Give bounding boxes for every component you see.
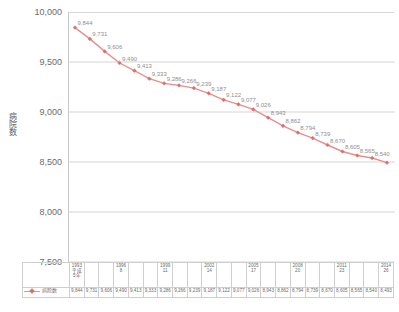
data-point-marker	[355, 154, 359, 158]
table-category-line: 17	[247, 268, 261, 273]
table-category-cell	[364, 263, 379, 288]
table-category-cell	[261, 263, 276, 288]
data-point-label: 9,266	[182, 78, 198, 84]
data-point-marker	[162, 82, 166, 86]
table-category-cell	[217, 263, 232, 288]
table-value-cell: 9,333	[143, 288, 158, 298]
data-point-marker	[192, 86, 196, 90]
table-category-cell: 200820	[290, 263, 305, 288]
table-category-line: 5年	[70, 273, 84, 278]
plot-area: 9,8449,7319,6069,4909,4139,3339,2869,266…	[68, 12, 394, 262]
table-category-cell	[128, 263, 143, 288]
data-point-label: 9,333	[152, 71, 168, 77]
table-category-line: 11	[158, 268, 172, 273]
table-category-cell	[143, 263, 158, 288]
data-point-label: 9,077	[241, 97, 257, 103]
y-axis-tick-label: 10,000	[34, 8, 62, 17]
table-category-cell	[84, 263, 99, 288]
data-point-label: 8,943	[271, 110, 287, 116]
y-axis-tick-labels: 10,0009,5009,0008,5008,0007,500	[16, 0, 66, 272]
y-axis-tick-label: 9,000	[39, 108, 62, 117]
table-category-cell	[305, 263, 320, 288]
data-point-label: 8,670	[330, 138, 346, 144]
data-point-label: 9,606	[107, 44, 123, 50]
data-table: 1993平成5年19968199911200214200517200820201…	[22, 262, 394, 298]
chart-figure: 病院数 10,0009,5009,0008,5008,0007,500 9,84…	[0, 0, 399, 312]
data-point-label: 9,490	[122, 56, 138, 62]
table-value-cell: 8,670	[320, 288, 335, 298]
table-category-line: 23	[335, 268, 349, 273]
table-category-line: 26	[379, 268, 393, 273]
data-point-marker	[237, 102, 241, 106]
table-value-cell: 8,794	[290, 288, 305, 298]
table-category-line: 8	[114, 268, 128, 273]
table-value-cell: 9,239	[187, 288, 202, 298]
legend-line-marker-icon	[24, 288, 40, 294]
data-point-label: 8,862	[286, 118, 302, 124]
y-axis-tick-label: 9,500	[39, 58, 62, 67]
table-row-values: 病院数9,8449,7319,6069,4909,4139,3339,2869,…	[23, 288, 394, 298]
table-value-cell: 9,266	[173, 288, 188, 298]
table-category-cell	[187, 263, 202, 288]
table-category-cell: 201123	[334, 263, 349, 288]
table-value-cell: 8,739	[305, 288, 320, 298]
table-value-cell: 9,731	[84, 288, 99, 298]
table-value-cell: 8,943	[261, 288, 276, 298]
table-category-cell: 200214	[202, 263, 217, 288]
table-category-cell: 1993平成5年	[70, 263, 85, 288]
data-point-label: 9,187	[211, 86, 227, 92]
data-point-label: 9,731	[92, 31, 108, 37]
table-value-cell: 9,286	[158, 288, 173, 298]
table-category-cell: 199911	[158, 263, 173, 288]
table-category-cell: 201426	[379, 263, 394, 288]
table-category-line: 14	[202, 268, 216, 273]
table-value-cell: 9,026	[246, 288, 261, 298]
table-value-cell: 8,493	[379, 288, 394, 298]
y-axis-tick-label: 8,500	[39, 158, 62, 167]
table-row-categories: 1993平成5年19968199911200214200517200820201…	[23, 263, 394, 288]
data-point-label: 8,605	[345, 144, 361, 150]
data-point-label: 9,844	[78, 20, 94, 26]
data-point-label: 9,239	[196, 81, 212, 87]
table-value-cell: 8,605	[334, 288, 349, 298]
legend-entry: 病院数	[23, 288, 70, 298]
table-category-cell	[349, 263, 364, 288]
line-chart-svg: 9,8449,7319,6069,4909,4139,3339,2869,266…	[69, 12, 395, 262]
table-value-cell: 9,413	[128, 288, 143, 298]
data-point-label: 8,739	[315, 131, 331, 137]
table-value-cell: 8,565	[349, 288, 364, 298]
data-point-label: 9,286	[167, 76, 183, 82]
table-category-cell: 19968	[114, 263, 129, 288]
data-point-label: 9,122	[226, 92, 242, 98]
data-point-marker	[385, 161, 389, 165]
table-category-cell	[99, 263, 114, 288]
data-point-label: 8,794	[300, 125, 316, 131]
table-category-line: 20	[291, 268, 305, 273]
table-category-cell	[276, 263, 291, 288]
y-axis-title: 病院数	[2, 112, 16, 136]
table-value-cell: 8,862	[276, 288, 291, 298]
table-value-cell: 8,540	[364, 288, 379, 298]
table-value-cell: 9,844	[70, 288, 85, 298]
table-category-cell: 200517	[246, 263, 261, 288]
data-point-marker	[177, 84, 181, 88]
y-axis-tick-label: 8,000	[39, 208, 62, 217]
data-point-label: 8,540	[375, 151, 391, 157]
table-category-cell	[231, 263, 246, 288]
table-value-cell: 9,187	[202, 288, 217, 298]
table-value-cell: 9,122	[217, 288, 232, 298]
table-category-cell	[173, 263, 188, 288]
table-value-cell: 9,077	[231, 288, 246, 298]
data-point-label: 9,413	[137, 63, 153, 69]
legend-label: 病院数	[42, 288, 57, 293]
data-point-label: 9,026	[256, 102, 272, 108]
data-table-wrapper: 1993平成5年19968199911200214200517200820201…	[22, 262, 394, 302]
table-corner-blank	[23, 263, 70, 288]
data-point-marker	[370, 156, 374, 160]
table-value-cell: 9,490	[114, 288, 129, 298]
data-point-label: 8,565	[360, 148, 376, 154]
table-category-cell	[320, 263, 335, 288]
table-value-cell: 9,606	[99, 288, 114, 298]
